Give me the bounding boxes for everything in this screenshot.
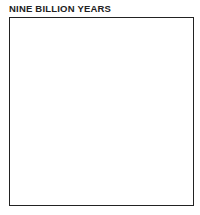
simulation-panel xyxy=(9,17,194,206)
particle-distribution-image xyxy=(10,18,194,206)
figure-title: NINE BILLION YEARS xyxy=(9,3,111,14)
